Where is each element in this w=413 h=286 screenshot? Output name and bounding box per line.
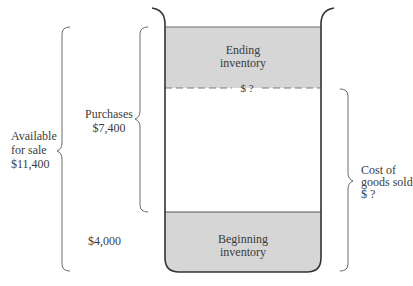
purchases-brace (135, 27, 148, 212)
available-line1: Available (11, 129, 57, 143)
beginning-inventory-label: Beginning inventory (165, 233, 321, 259)
purchases-line1: Purchases (84, 107, 134, 121)
beginning-inventory-line2: inventory (165, 246, 321, 259)
available-line2: for sale (11, 143, 57, 157)
available-amount: $11,400 (11, 157, 57, 171)
purchases-label: Purchases $7,400 (84, 107, 134, 135)
available-for-sale-label: Available for sale $11,400 (11, 129, 57, 171)
ending-inventory-line2: inventory (165, 57, 321, 70)
beginning-inventory-amount: $4,000 (88, 235, 121, 248)
cogs-value: $ ? (361, 188, 413, 200)
cogs-brace (340, 89, 353, 271)
ending-inventory-label: Ending inventory (165, 44, 321, 70)
purchases-amount: $7,400 (84, 121, 134, 135)
available-brace (57, 27, 70, 271)
cogs-label: Cost of goods sold $ ? (361, 164, 413, 200)
ending-inventory-value: $ ? (232, 82, 262, 95)
